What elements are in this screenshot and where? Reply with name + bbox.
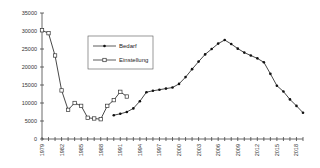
filled-circle-marker-icon bbox=[276, 84, 279, 87]
legend-box bbox=[88, 36, 153, 69]
legend-label-einstellung: Einstellung bbox=[119, 57, 148, 63]
x-tick-label: 2003 bbox=[196, 144, 202, 156]
filled-circle-marker-icon bbox=[204, 53, 207, 56]
open-square-marker-icon bbox=[60, 89, 63, 92]
x-tick-label: 2018 bbox=[293, 144, 299, 156]
filled-circle-marker-icon bbox=[191, 68, 194, 71]
x-tick-label: 1997 bbox=[156, 144, 162, 156]
filled-circle-marker-icon bbox=[158, 88, 161, 91]
filled-circle-marker-icon bbox=[171, 86, 174, 89]
filled-circle-marker-icon bbox=[223, 39, 226, 42]
x-tick-label: 1991 bbox=[117, 144, 123, 156]
filled-circle-marker-icon bbox=[217, 42, 220, 45]
filled-circle-marker-icon bbox=[119, 113, 122, 116]
y-tick-label: 35000 bbox=[22, 10, 37, 16]
open-square-marker-icon bbox=[99, 118, 102, 121]
legend: Bedarf Einstellung bbox=[88, 36, 153, 69]
x-tick-label: 2009 bbox=[235, 144, 241, 156]
line-chart: 05000100001500020000250003000035000 1979… bbox=[0, 0, 320, 168]
filled-circle-marker-icon bbox=[230, 43, 233, 46]
filled-circle-marker-icon bbox=[126, 111, 129, 114]
x-tick-label: 2012 bbox=[254, 144, 260, 156]
filled-circle-marker-icon bbox=[165, 87, 168, 90]
filled-circle-marker-icon bbox=[295, 105, 298, 108]
filled-circle-marker-icon bbox=[103, 45, 106, 48]
filled-circle-marker-icon bbox=[302, 111, 305, 114]
filled-circle-marker-icon bbox=[184, 76, 187, 79]
x-tick-label: 1979 bbox=[39, 144, 45, 156]
open-square-marker-icon bbox=[112, 98, 115, 101]
filled-circle-marker-icon bbox=[250, 54, 253, 57]
open-square-marker-icon bbox=[40, 29, 43, 32]
y-tick-label: 20000 bbox=[22, 64, 37, 70]
filled-circle-marker-icon bbox=[289, 98, 292, 101]
filled-circle-marker-icon bbox=[256, 57, 259, 60]
open-square-marker-icon bbox=[47, 31, 50, 34]
x-tick-label: 1994 bbox=[137, 144, 143, 156]
open-square-marker-icon bbox=[106, 104, 109, 107]
open-square-marker-icon bbox=[103, 58, 106, 61]
open-square-marker-icon bbox=[53, 54, 56, 57]
filled-circle-marker-icon bbox=[236, 47, 239, 50]
filled-circle-marker-icon bbox=[282, 90, 285, 93]
x-tick-label: 1982 bbox=[59, 144, 65, 156]
plot-area bbox=[40, 29, 304, 121]
x-tick-label: 2006 bbox=[215, 144, 221, 156]
y-tick-label: 30000 bbox=[22, 28, 37, 34]
filled-circle-marker-icon bbox=[132, 107, 135, 110]
x-tick-label: 1988 bbox=[98, 144, 104, 156]
open-square-marker-icon bbox=[79, 104, 82, 107]
filled-circle-marker-icon bbox=[112, 114, 115, 117]
open-square-marker-icon bbox=[93, 117, 96, 120]
filled-circle-marker-icon bbox=[152, 89, 155, 92]
filled-circle-marker-icon bbox=[263, 61, 266, 64]
open-square-marker-icon bbox=[119, 90, 122, 93]
filled-circle-marker-icon bbox=[178, 83, 181, 86]
x-tick-label: 2015 bbox=[274, 144, 280, 156]
filled-circle-marker-icon bbox=[243, 51, 246, 54]
y-tick-label: 15000 bbox=[22, 82, 37, 88]
x-axis: 1979198219851988199119941997200020032006… bbox=[39, 137, 303, 156]
open-square-marker-icon bbox=[66, 108, 69, 111]
open-square-marker-icon bbox=[86, 116, 89, 119]
filled-circle-marker-icon bbox=[145, 91, 148, 94]
x-tick-label: 1985 bbox=[78, 144, 84, 156]
y-tick-label: 25000 bbox=[22, 46, 37, 52]
y-tick-label: 0 bbox=[34, 136, 37, 142]
filled-circle-marker-icon bbox=[210, 48, 213, 51]
legend-label-bedarf: Bedarf bbox=[119, 43, 137, 49]
filled-circle-marker-icon bbox=[269, 73, 272, 76]
y-tick-label: 5000 bbox=[25, 118, 37, 124]
y-tick-label: 10000 bbox=[22, 100, 37, 106]
filled-circle-marker-icon bbox=[197, 60, 200, 63]
open-square-marker-icon bbox=[125, 95, 128, 98]
filled-circle-marker-icon bbox=[139, 100, 142, 103]
open-square-marker-icon bbox=[73, 101, 76, 104]
x-tick-label: 2000 bbox=[176, 144, 182, 156]
